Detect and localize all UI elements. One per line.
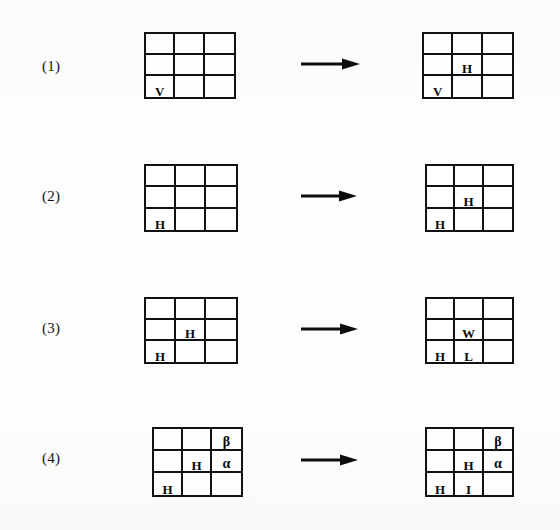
cell-symbol: V (433, 85, 442, 98)
grid-cell-r2-c2: H (455, 451, 483, 473)
output-grid-1: HV (422, 32, 514, 99)
grid-cell-r1-c2 (175, 34, 204, 55)
grid-cell-r2-c3: α (212, 451, 241, 473)
grid-cell-r3-c3 (483, 76, 512, 97)
input-grid-2: H (144, 164, 238, 232)
grid-cell-r1-c3 (206, 299, 236, 320)
grid-cell-r1-c2 (176, 299, 206, 320)
grid-cell-r1-c3: β (484, 429, 512, 451)
grid-cell-r2-c1 (146, 55, 175, 76)
grid-cell-r1-c2 (176, 166, 206, 187)
row-label-2: (2) (42, 188, 60, 205)
grid-cell-r3-c3 (484, 209, 512, 230)
grid-cell-r3-c2 (455, 209, 483, 230)
arrow-right-icon (300, 189, 357, 203)
grid-cell-r1-c3 (484, 166, 512, 187)
grid-cell-r3-c1: V (424, 76, 453, 97)
row-label-3: (3) (42, 320, 60, 337)
grid-cell-r1-c3 (205, 34, 234, 55)
grid-cell-r2-c3 (206, 320, 236, 341)
grid-cell-r1-c1 (146, 299, 176, 320)
grid-cell-r3-c1: H (427, 209, 455, 230)
grid-cell-r2-c3 (484, 320, 512, 341)
cell-symbol: H (191, 459, 201, 472)
grid-cell-r3-c1: V (146, 76, 175, 97)
grid-cell-r3-c3 (206, 341, 236, 362)
grid-cell-r1-c2 (455, 429, 483, 451)
grid-cell-r2-c2: H (183, 451, 212, 473)
grid-cell-r2-c1 (146, 320, 176, 341)
grid-cell-r1-c2 (455, 299, 483, 320)
grid-cell-r2-c2 (175, 55, 204, 76)
grid-cell-r1-c3 (483, 34, 512, 55)
cell-symbol: H (155, 350, 165, 363)
grid-cell-r2-c2 (176, 187, 206, 208)
grid-cell-r2-c2: H (453, 55, 482, 76)
arrow-right-icon (300, 322, 358, 336)
grid-cell-r3-c2 (175, 76, 204, 97)
cell-symbol: H (463, 195, 473, 208)
grid-cell-r2-c1 (146, 187, 176, 208)
input-grid-1: V (144, 32, 236, 99)
grid-cell-r1-c2 (183, 429, 212, 451)
row-label-1: (1) (42, 58, 60, 75)
output-grid-2: HH (425, 164, 514, 232)
grid-cell-r1-c3 (206, 166, 236, 187)
grid-cell-r3-c2 (183, 473, 212, 495)
grid-cell-r1-c3: β (212, 429, 241, 451)
cell-symbol: β (494, 435, 501, 449)
grid-cell-r2-c3: α (484, 451, 512, 473)
cell-symbol: W (462, 327, 475, 340)
grid-cell-r3-c3 (212, 473, 241, 495)
row-label-4: (4) (42, 450, 60, 467)
grid-cell-r2-c3 (206, 187, 236, 208)
grid-cell-r3-c2 (453, 76, 482, 97)
cell-symbol: V (155, 85, 164, 98)
grid-cell-r3-c2 (176, 341, 206, 362)
figure-canvas: (1)VHV(2)HHH(3)HHWHL(4)βHαHβHαHI (0, 0, 560, 530)
grid-cell-r2-c1 (424, 55, 453, 76)
cell-symbol: H (435, 350, 445, 363)
cell-symbol: H (435, 218, 445, 231)
cell-symbol: H (462, 62, 472, 75)
grid-cell-r1-c1 (424, 34, 453, 55)
grid-cell-r2-c2: W (455, 320, 483, 341)
output-grid-3: WHL (425, 297, 514, 364)
input-grid-4: βHαH (152, 427, 243, 497)
cell-symbol: I (466, 483, 471, 496)
cell-symbol: L (464, 350, 473, 363)
grid-cell-r3-c3 (206, 209, 236, 230)
grid-cell-r1-c2 (453, 34, 482, 55)
grid-cell-r3-c3 (484, 341, 512, 362)
cell-symbol: H (155, 218, 165, 231)
grid-cell-r1-c1 (146, 166, 176, 187)
grid-cell-r3-c3 (205, 76, 234, 97)
grid-cell-r3-c2: I (455, 473, 483, 495)
grid-cell-r1-c1 (154, 429, 183, 451)
arrow-right-icon (300, 57, 360, 71)
cell-symbol: H (463, 459, 473, 472)
input-grid-3: HH (144, 297, 238, 364)
grid-cell-r2-c2: H (176, 320, 206, 341)
cell-symbol: α (223, 457, 231, 471)
cell-symbol: α (494, 457, 502, 471)
grid-cell-r3-c1: H (146, 209, 176, 230)
cell-symbol: H (435, 483, 445, 496)
grid-cell-r2-c1 (154, 451, 183, 473)
grid-cell-r2-c3 (483, 55, 512, 76)
grid-cell-r3-c1: H (427, 473, 455, 495)
grid-cell-r3-c2 (176, 209, 206, 230)
grid-cell-r2-c1 (427, 451, 455, 473)
grid-cell-r1-c3 (484, 299, 512, 320)
grid-cell-r2-c3 (205, 55, 234, 76)
cell-symbol: H (162, 483, 172, 496)
grid-cell-r3-c1: H (146, 341, 176, 362)
grid-cell-r3-c3 (484, 473, 512, 495)
grid-cell-r3-c1: H (154, 473, 183, 495)
cell-symbol: β (223, 435, 230, 449)
arrow-right-icon (300, 453, 358, 467)
cell-symbol: H (185, 327, 195, 340)
grid-cell-r3-c2: L (455, 341, 483, 362)
grid-cell-r2-c3 (484, 187, 512, 208)
output-grid-4: βHαHI (425, 427, 514, 497)
